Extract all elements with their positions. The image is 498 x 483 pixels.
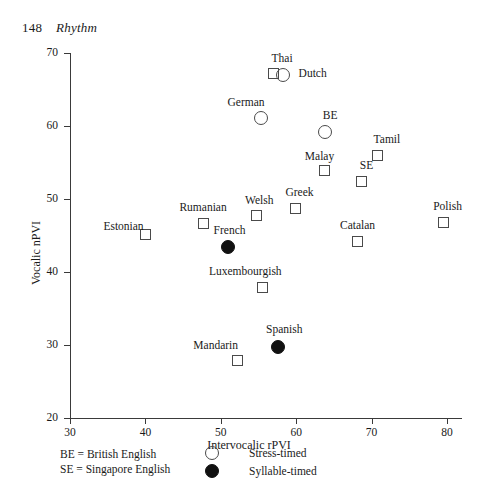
data-point-malay[interactable]	[319, 165, 330, 176]
data-point-label-be: BE	[323, 109, 338, 121]
data-point-se[interactable]	[356, 176, 367, 187]
legend-abbrev-be: BE = British English	[60, 447, 170, 462]
data-point-label-dutch: Dutch	[299, 67, 327, 79]
data-point-tamil[interactable]	[372, 150, 383, 161]
data-point-catalan[interactable]	[352, 236, 363, 247]
x-tick	[447, 418, 448, 424]
x-tick	[372, 418, 373, 424]
data-point-greek[interactable]	[290, 203, 301, 214]
data-point-mandarin[interactable]	[232, 355, 243, 366]
figure-page: 148Rhythm 203040506070 304050607080 Voca…	[0, 0, 498, 483]
data-point-label-spanish: Spanish	[266, 323, 302, 335]
data-point-label-greek: Greek	[285, 186, 313, 198]
data-point-rumanian[interactable]	[198, 218, 209, 229]
data-point-label-polish: Polish	[433, 200, 462, 212]
x-tick	[145, 418, 146, 424]
data-point-label-estonian: Estonian	[103, 220, 143, 232]
data-point-label-mandarin: Mandarin	[193, 339, 238, 351]
x-tick-label: 80	[427, 426, 467, 438]
legend-row-syllable-timed: Syllable-timed	[205, 462, 317, 480]
data-point-label-catalan: Catalan	[340, 219, 375, 231]
data-point-be[interactable]	[318, 125, 332, 139]
filled-circle-icon	[205, 464, 227, 478]
legend-abbreviations: BE = British English SE = Singapore Engl…	[60, 447, 170, 477]
y-tick-label: 60	[28, 120, 58, 131]
legend-row-stress-timed: Stress-timed	[205, 444, 317, 462]
page-header: 148Rhythm	[22, 20, 97, 36]
legend-label-stress-timed: Stress-timed	[249, 447, 307, 459]
data-point-polish[interactable]	[438, 217, 449, 228]
data-point-welsh[interactable]	[251, 210, 262, 221]
y-tick-label: 70	[28, 47, 58, 58]
data-point-label-luxembourgish: Luxembourgish	[209, 265, 282, 277]
x-axis-line	[70, 418, 462, 419]
x-tick-label: 30	[50, 426, 90, 438]
data-point-dutch[interactable]	[276, 68, 290, 82]
data-point-label-french: French	[214, 224, 246, 236]
x-tick-label: 70	[352, 426, 392, 438]
data-point-label-german: German	[227, 96, 264, 108]
x-tick-label: 60	[276, 426, 316, 438]
open-circle-icon	[205, 446, 227, 460]
data-point-label-malay: Malay	[305, 150, 334, 162]
data-point-label-se: SE	[360, 159, 373, 171]
data-point-label-thai: Thai	[272, 52, 293, 64]
x-tick	[221, 418, 222, 424]
y-tick-label: 50	[28, 193, 58, 204]
data-point-luxembourgish[interactable]	[257, 282, 268, 293]
x-tick-label: 40	[125, 426, 165, 438]
y-tick-label: 30	[28, 339, 58, 350]
data-point-label-rumanian: Rumanian	[179, 201, 226, 213]
scatter-plot-area	[70, 53, 460, 418]
y-tick-label: 20	[28, 412, 58, 423]
y-axis-title: Vocalic nPVI	[29, 221, 44, 285]
running-head: Rhythm	[56, 20, 97, 35]
legend-label-syllable-timed: Syllable-timed	[249, 465, 317, 477]
data-point-label-welsh: Welsh	[245, 194, 273, 206]
data-point-french[interactable]	[221, 240, 235, 254]
x-tick	[296, 418, 297, 424]
page-number: 148	[22, 20, 42, 35]
legend-abbrev-se: SE = Singapore English	[60, 462, 170, 477]
x-tick-label: 50	[201, 426, 241, 438]
x-tick	[70, 418, 71, 424]
data-point-label-tamil: Tamil	[374, 133, 401, 145]
legend-marker-keys: Stress-timed Syllable-timed	[205, 444, 317, 480]
